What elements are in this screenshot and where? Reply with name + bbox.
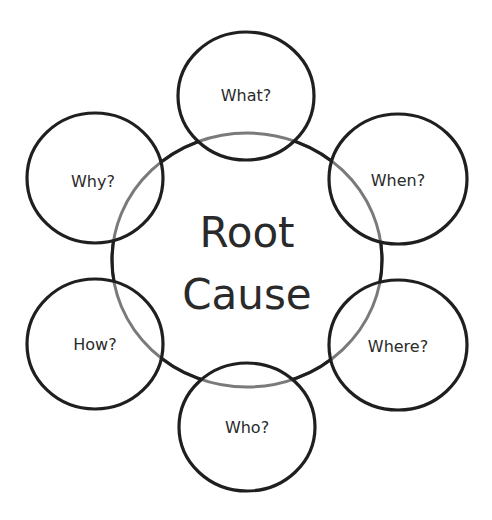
node-label-when: When? xyxy=(371,171,425,190)
center-circle xyxy=(112,133,382,387)
diagram-svg: Root Cause What? When? Where? Who? How? … xyxy=(0,0,492,520)
node-label-who: Who? xyxy=(225,418,269,437)
node-label-what: What? xyxy=(221,86,272,105)
center-label-line2: Cause xyxy=(182,270,311,319)
node-label-how: How? xyxy=(73,335,116,354)
node-label-why: Why? xyxy=(71,172,115,191)
node-label-where: Where? xyxy=(368,337,428,356)
center-label-line1: Root xyxy=(199,208,294,257)
root-cause-diagram: Root Cause What? When? Where? Who? How? … xyxy=(0,0,492,520)
